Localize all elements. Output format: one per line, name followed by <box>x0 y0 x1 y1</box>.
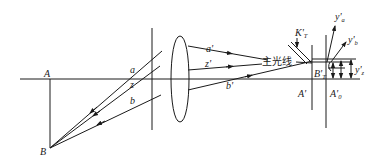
ray-z-arrow <box>93 111 100 116</box>
label-ya-prime: y'a <box>334 11 345 23</box>
label-a: a <box>130 64 135 75</box>
ray-b-arrow <box>97 121 105 125</box>
label-z: z <box>129 79 134 90</box>
label-yz-prime: y'z <box>354 64 365 76</box>
ray-a-prime-arrow <box>225 53 232 54</box>
optical-diagram: A B a z b a' z' b' 主光线 A' A'0 B'T K'T y'… <box>0 0 377 164</box>
label-yb-prime: y'b <box>347 34 359 46</box>
label-KT-prime: K'T <box>294 27 308 39</box>
y-a-arrow <box>327 26 335 62</box>
ray-b <box>50 95 161 148</box>
ray-z-prime <box>188 64 262 70</box>
label-b-prime: b' <box>226 80 234 91</box>
label-a-prime: a' <box>206 43 214 54</box>
ray-b-prime-arrow <box>245 75 252 77</box>
label-BT-prime: B'T <box>314 68 326 80</box>
label-chief-ray: 主光线 <box>262 55 292 67</box>
label-z-prime: z' <box>204 58 212 69</box>
tangential-surface-line-1 <box>291 42 311 62</box>
label-A-prime: A' <box>297 88 307 99</box>
label-b: b <box>130 95 135 106</box>
focus-curve <box>329 62 331 71</box>
ray-z <box>50 66 160 148</box>
ray-a <box>50 51 162 148</box>
label-A0-prime: A'0 <box>329 88 342 100</box>
label-B: B <box>40 146 46 157</box>
label-A: A <box>43 68 51 79</box>
ray-z-prime-arrow <box>226 66 233 67</box>
ray-a-arrow <box>90 107 97 113</box>
